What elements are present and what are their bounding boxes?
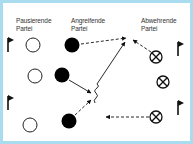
resting-player-icon	[23, 118, 37, 132]
run-arrow	[69, 80, 91, 93]
flag-icon	[8, 37, 14, 52]
resting-player-icon	[26, 38, 40, 52]
attacking-player-icon	[62, 114, 77, 129]
defending-player-icon	[157, 76, 169, 88]
pass-arrow	[75, 100, 91, 115]
flag-icon	[8, 95, 14, 110]
defending-player-icon	[150, 111, 162, 123]
attacking-player-icon	[55, 68, 70, 83]
attacking-player-icon	[65, 38, 80, 53]
diagram-canvas	[0, 0, 193, 144]
resting-player-icon	[28, 69, 42, 83]
defender-move-arrow	[133, 40, 151, 52]
flag-icon	[178, 100, 184, 115]
defending-player-icon	[150, 51, 162, 63]
pass-arrow	[81, 38, 126, 44]
dribble-arrow	[94, 42, 125, 103]
flag-icon	[178, 41, 184, 56]
